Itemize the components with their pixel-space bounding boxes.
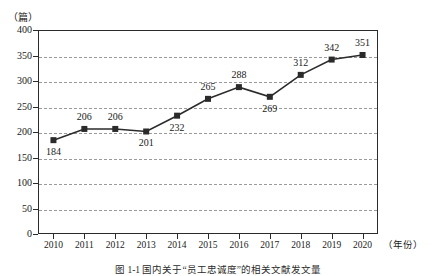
y-axis-tick (33, 30, 38, 31)
x-axis-tick-label: 2018 (284, 240, 318, 251)
x-axis-tick (239, 234, 240, 239)
x-axis-unit-label: （年份） (383, 240, 423, 251)
y-axis-tick-label: 350 (2, 51, 32, 61)
x-axis-tick-label: 2010 (36, 240, 70, 251)
x-axis-tick (363, 234, 364, 239)
x-axis-tick-label: 2013 (129, 240, 163, 251)
data-point-label: 312 (286, 57, 316, 68)
y-axis-tick (33, 132, 38, 133)
y-axis-tick-label: 300 (2, 76, 32, 86)
y-axis-tick-label: 250 (2, 102, 32, 112)
x-axis-tick (208, 234, 209, 239)
x-axis-tick (53, 234, 54, 239)
x-axis-tick (177, 234, 178, 239)
data-point-marker (298, 72, 304, 78)
x-axis-tick-label: 2020 (346, 240, 380, 251)
y-axis-tick (33, 209, 38, 210)
x-axis-tick (115, 234, 116, 239)
y-axis-tick-label: 150 (2, 153, 32, 163)
data-point-marker (81, 126, 87, 132)
y-axis-tick-label: 100 (2, 178, 32, 188)
data-point-marker (143, 128, 149, 134)
data-point-marker (360, 52, 366, 58)
x-axis-tick-label: 2016 (222, 240, 256, 251)
x-axis-tick-label: 2014 (160, 240, 194, 251)
data-point-label: 265 (193, 81, 223, 92)
data-point-label: 184 (38, 146, 68, 157)
data-point-label: 342 (317, 42, 347, 53)
data-point-label: 201 (131, 137, 161, 148)
y-axis-tick (33, 234, 38, 235)
data-series-layer (38, 30, 378, 234)
y-axis-tick-label: 0 (2, 229, 32, 239)
x-axis-tick (146, 234, 147, 239)
data-point-marker (205, 96, 211, 102)
data-point-marker (267, 94, 273, 100)
y-axis-tick (33, 183, 38, 184)
data-point-label: 206 (100, 111, 130, 122)
x-axis-tick-label: 2012 (98, 240, 132, 251)
y-axis-tick (33, 107, 38, 108)
data-point-label: 351 (348, 37, 378, 48)
data-point-label: 206 (69, 111, 99, 122)
data-point-marker (174, 113, 180, 119)
x-axis-tick (301, 234, 302, 239)
y-axis-tick-label: 200 (2, 127, 32, 137)
data-point-marker (50, 137, 56, 143)
figure-caption: 图 1-1 国内关于“员工忠诚度”的相关文献发文量 (0, 264, 436, 276)
data-point-label: 232 (162, 122, 192, 133)
x-axis-tick (332, 234, 333, 239)
y-axis-tick-label: 50 (2, 204, 32, 214)
data-point-label: 288 (224, 69, 254, 80)
x-axis-tick-label: 2017 (253, 240, 287, 251)
data-point-marker (236, 84, 242, 90)
y-axis-tick (33, 81, 38, 82)
y-axis-tick (33, 158, 38, 159)
x-axis-tick (84, 234, 85, 239)
data-point-label: 269 (255, 103, 285, 114)
x-axis-tick-label: 2015 (191, 240, 225, 251)
y-axis-tick (33, 56, 38, 57)
data-point-marker (329, 57, 335, 63)
data-point-marker (112, 126, 118, 132)
x-axis-tick (270, 234, 271, 239)
y-axis-labels: 400350300250200150100500 (0, 0, 32, 272)
x-axis-tick-label: 2011 (67, 240, 101, 251)
y-axis-tick-label: 400 (2, 25, 32, 35)
x-axis-tick-label: 2019 (315, 240, 349, 251)
